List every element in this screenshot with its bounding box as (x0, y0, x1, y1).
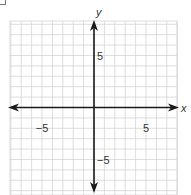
x-tick-label: −5 (36, 122, 49, 134)
axes (8, 20, 179, 193)
coordinate-plane: xy−555−5 (0, 0, 191, 195)
y-tick-label: 5 (97, 50, 103, 62)
y-axis-label: y (95, 6, 103, 18)
x-tick-label: 5 (143, 122, 149, 134)
x-axis-label: x (180, 102, 187, 114)
tick-labels: xy−555−5 (36, 6, 187, 166)
y-tick-label: −5 (97, 154, 110, 166)
